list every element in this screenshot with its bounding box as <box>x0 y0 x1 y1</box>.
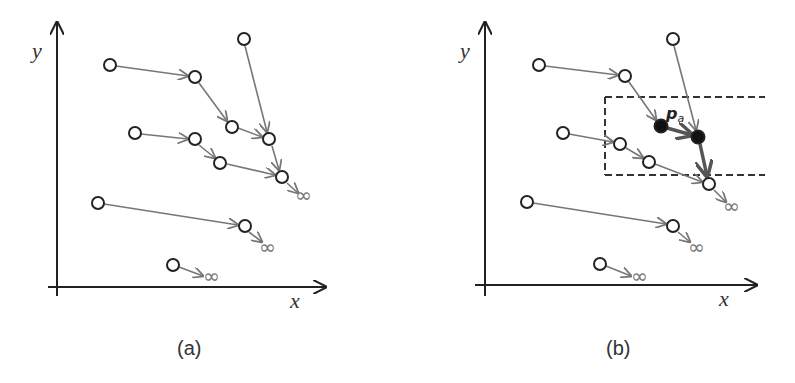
axes <box>475 22 757 296</box>
figure-canvas: y x <box>0 0 795 383</box>
node <box>226 121 238 133</box>
node <box>667 33 679 45</box>
nodes <box>521 33 715 270</box>
axes <box>48 22 326 296</box>
node <box>667 220 679 232</box>
caption-a: (a) <box>177 337 201 360</box>
node <box>214 157 226 169</box>
node <box>619 70 631 82</box>
node <box>643 156 655 168</box>
x-axis-label: x <box>718 286 729 311</box>
node <box>239 220 251 232</box>
panel-b: y x <box>458 22 765 311</box>
y-axis-label: y <box>458 38 470 63</box>
node-filled <box>692 131 705 144</box>
node <box>129 127 141 139</box>
node <box>703 178 715 190</box>
node <box>104 59 116 71</box>
node <box>189 133 201 145</box>
node <box>189 71 201 83</box>
dashed-region <box>605 97 765 175</box>
x-axis-label: x <box>289 288 300 313</box>
node <box>557 127 569 139</box>
node <box>614 138 626 150</box>
node <box>521 196 533 208</box>
infinity-icon: ∞ <box>688 235 705 259</box>
infinity-labels: ∞ ∞ ∞ <box>203 183 312 288</box>
highlight-point-label: pa <box>665 104 684 125</box>
node <box>92 197 104 209</box>
node <box>238 33 250 45</box>
infinity-icon: ∞ <box>259 235 276 259</box>
node <box>276 171 288 183</box>
node <box>167 259 179 271</box>
infinity-icon: ∞ <box>203 264 220 288</box>
node <box>533 59 545 71</box>
infinity-icon: ∞ <box>631 264 648 288</box>
infinity-icon: ∞ <box>295 183 312 207</box>
infinity-icon: ∞ <box>723 194 740 218</box>
node <box>263 133 275 145</box>
caption-b: (b) <box>606 337 630 360</box>
panel-a: y x <box>30 22 326 313</box>
node <box>594 258 606 270</box>
infinity-labels: ∞ ∞ ∞ <box>631 194 740 288</box>
y-axis-label: y <box>30 38 42 63</box>
